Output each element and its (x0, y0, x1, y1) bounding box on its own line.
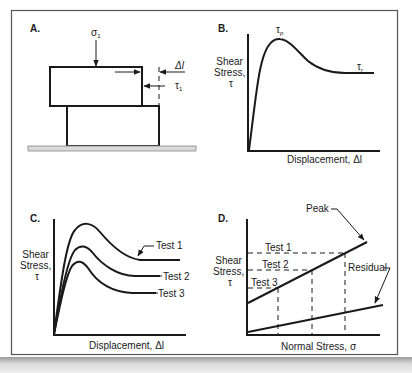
peak-residual-curve (249, 39, 374, 150)
test-2-label: Test 2 (163, 271, 190, 282)
figure-canvas: A. σ1 Δl τ1 B. Shear Stress, τ Di (0, 0, 412, 373)
bottom-shadow-band (0, 357, 412, 373)
shear-stress-label: τ1 (175, 80, 183, 92)
test-3-label: Test 3 (158, 288, 185, 299)
panel-d-failure-envelopes: D. Shear Stress, τ Normal Stress, σ Test… (213, 203, 390, 352)
displacement-label: Δl (174, 60, 185, 71)
test-1-leader-arrow-icon (138, 246, 144, 256)
panel-a-letter: A. (30, 23, 40, 34)
test-1-label: Test 1 (156, 240, 183, 251)
panel-d-ylabel: Shear Stress, τ (213, 255, 247, 288)
lower-shear-box (67, 106, 159, 146)
normal-stress-label: σ1 (91, 27, 101, 39)
panel-b-stress-displacement: B. Shear Stress, τ Displacement, Δl τp τ… (214, 23, 380, 165)
residual-envelope-label: Residual (348, 262, 387, 273)
shear-test-figure: A. σ1 Δl τ1 B. Shear Stress, τ Di (0, 0, 412, 373)
panel-d-letter: D. (218, 213, 228, 224)
panel-d-xlabel: Normal Stress, σ (281, 341, 357, 352)
panel-a-direct-shear-box: A. σ1 Δl τ1 (28, 23, 196, 151)
base-plate (28, 146, 196, 151)
figure-frame (12, 11, 398, 355)
panel-b-letter: B. (218, 23, 228, 34)
residual-envelope-line (248, 305, 383, 332)
test-2-point-label: Test 2 (262, 259, 289, 270)
residual-strength-label: τr (357, 61, 364, 73)
peak-strength-label: τp (276, 24, 284, 36)
peak-envelope-label: Peak (306, 203, 330, 214)
panel-c-xlabel: Displacement, Δl (89, 340, 164, 351)
panel-c-multiple-tests: C. Shear Stress, τ Displacement, Δl Test… (20, 213, 190, 351)
test-3-point-label: Test 3 (251, 277, 278, 288)
panel-c-letter: C. (30, 213, 40, 224)
test-1-point-label: Test 1 (265, 242, 292, 253)
panel-b-ylabel: Shear Stress, τ (214, 56, 248, 89)
panel-b-xlabel: Displacement, Δl (287, 154, 362, 165)
residual-leader-arrow-icon (375, 268, 390, 303)
test-3-curve (54, 262, 156, 334)
panel-c-ylabel: Shear Stress, τ (20, 249, 54, 282)
peak-leader-arrow-icon (337, 209, 364, 240)
upper-shear-box (50, 67, 142, 106)
